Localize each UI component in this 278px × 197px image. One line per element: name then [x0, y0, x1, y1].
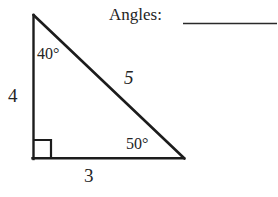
side-length-label-vertical: 4 — [8, 86, 18, 105]
angle-label-bottom-right: 50° — [126, 136, 148, 152]
side-length-label-hypotenuse: 5 — [124, 68, 134, 87]
side-length-label-horizontal: 3 — [84, 166, 94, 185]
right-triangle-figure — [0, 0, 278, 197]
right-angle-marker-icon — [33, 140, 51, 158]
angle-label-top: 40° — [37, 46, 59, 62]
angles-prompt-label: Angles: — [109, 6, 162, 23]
worksheet-figure-page: Angles: 4 3 5 40° 50° — [0, 0, 278, 197]
triangle-hypotenuse — [34, 15, 185, 159]
